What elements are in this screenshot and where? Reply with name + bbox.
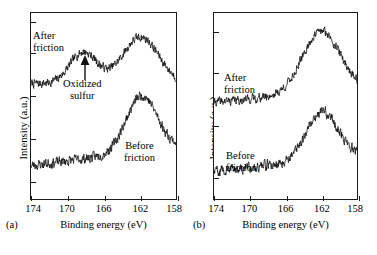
- y-tick-2: [214, 73, 219, 74]
- panel-caption-b: (b): [193, 219, 205, 230]
- x-tick-170: [250, 196, 251, 201]
- x-tick-158: [178, 196, 179, 201]
- panel-caption-a: (a): [6, 219, 18, 230]
- y-tick-2: [31, 96, 36, 97]
- y-tick-1: [31, 139, 36, 140]
- x-tick-label-174: 174: [25, 203, 41, 214]
- y-tick-3: [214, 32, 219, 33]
- panel-a: Intensity (a.u.) 174170166162158 Binding…: [0, 0, 189, 255]
- x-tick-label-174: 174: [208, 203, 224, 214]
- xps-figure: Intensity (a.u.) 174170166162158 Binding…: [0, 0, 377, 255]
- oxidized-sulfur-arrow-icon: [79, 55, 91, 81]
- panel-b: Intensity (a.u.) 174170166162158 Binding…: [189, 0, 377, 255]
- x-tick-label-162: 162: [314, 203, 330, 214]
- y-tick-0: [31, 182, 36, 183]
- x-tick-label-170: 170: [59, 203, 75, 214]
- x-axis-title-b: Binding energy (eV): [213, 219, 358, 230]
- x-tick-158: [359, 196, 360, 201]
- y-axis-title-a: Intensity (a.u.): [18, 68, 29, 188]
- x-tick-174: [214, 196, 215, 201]
- y-tick-0: [214, 178, 219, 179]
- x-tick-170: [68, 196, 69, 201]
- x-tick-166: [287, 196, 288, 201]
- y-tick-4: [31, 22, 36, 23]
- x-tick-label-170: 170: [241, 203, 257, 214]
- x-tick-174: [31, 196, 32, 201]
- x-tick-label-162: 162: [132, 203, 148, 214]
- x-tick-labels-b: 174170166162158: [213, 203, 358, 217]
- x-tick-162: [323, 196, 324, 201]
- annotation-oxidized-sulfur-a: Oxidizedsulfur: [63, 78, 102, 101]
- annotation-after-friction-a: Afterfriction: [33, 30, 64, 53]
- annotation-before-friction-b: Beforefriction: [226, 150, 257, 173]
- x-axis-title-a: Binding energy (eV): [30, 219, 177, 230]
- x-tick-labels-a: 174170166162158: [30, 203, 177, 217]
- x-tick-162: [141, 196, 142, 201]
- x-tick-label-166: 166: [96, 203, 112, 214]
- x-tick-label-166: 166: [278, 203, 294, 214]
- annotation-after-friction-b: Afterfriction: [224, 72, 255, 95]
- y-tick-1: [214, 126, 219, 127]
- annotation-before-friction-a: Beforefriction: [124, 140, 155, 163]
- x-tick-166: [105, 196, 106, 201]
- x-tick-label-158: 158: [166, 203, 182, 214]
- x-tick-label-158: 158: [347, 203, 363, 214]
